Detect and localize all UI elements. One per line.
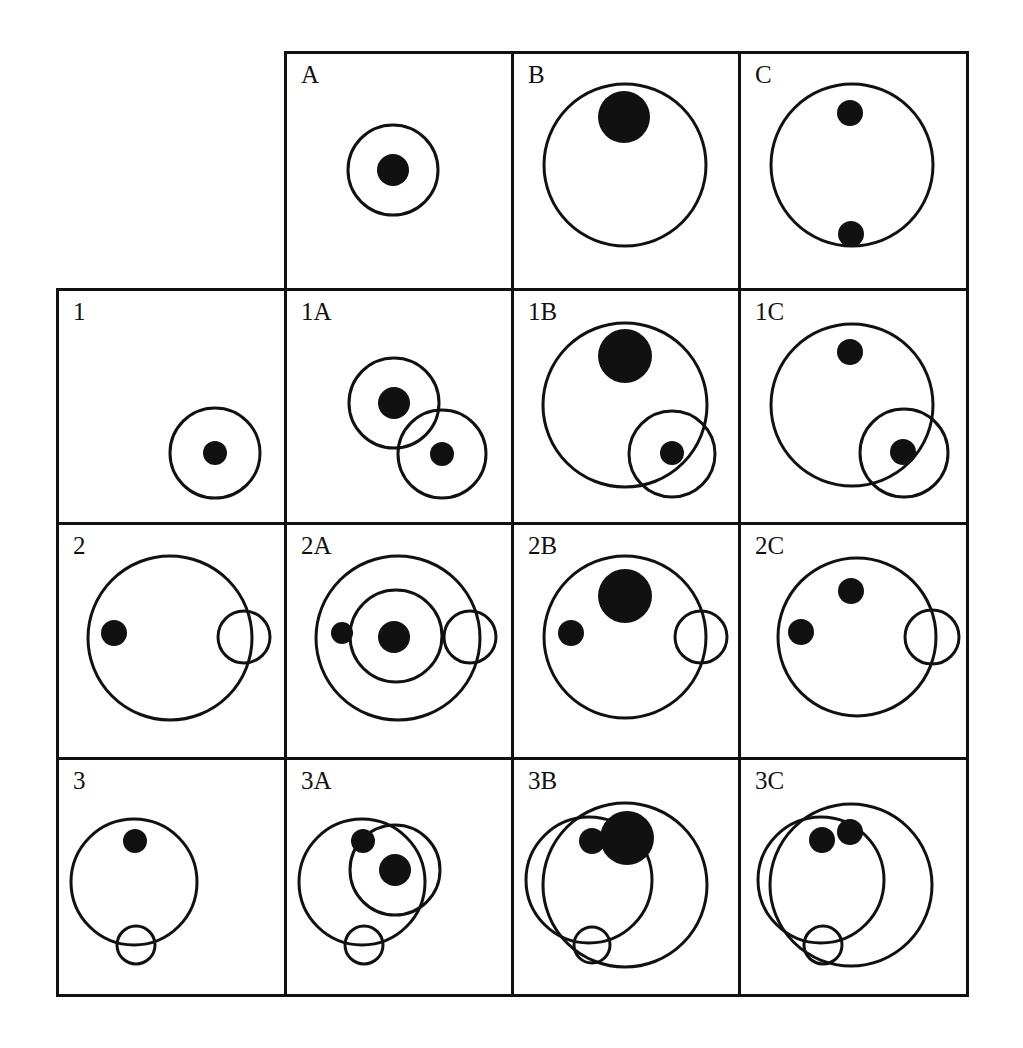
grid-cell-c: C bbox=[738, 51, 969, 291]
filled-dot-icon bbox=[837, 819, 863, 845]
filled-dot-icon bbox=[378, 387, 410, 419]
cell-label: 2C bbox=[755, 533, 784, 558]
grid-cell-3b: 3B bbox=[511, 757, 741, 997]
grid-cell-2c: 2C bbox=[738, 522, 969, 760]
filled-dot-icon bbox=[203, 441, 227, 465]
cell-diagram bbox=[56, 288, 287, 525]
filled-dot-icon bbox=[788, 619, 814, 645]
grid-cell-2: 2 bbox=[56, 522, 287, 760]
grid-cell-3a: 3A bbox=[284, 757, 514, 997]
filled-dot-icon bbox=[598, 329, 652, 383]
filled-dot-icon bbox=[377, 154, 409, 186]
grid-cell-b: B bbox=[511, 51, 741, 291]
filled-dot-icon bbox=[379, 854, 411, 886]
grid-cell-2b: 2B bbox=[511, 522, 741, 760]
filled-dot-icon bbox=[598, 91, 650, 143]
filled-dot-icon bbox=[660, 441, 684, 465]
ring-circle-icon bbox=[804, 926, 842, 964]
cell-label: C bbox=[755, 62, 772, 87]
grid-cell-a: A bbox=[284, 51, 514, 291]
cell-diagram bbox=[56, 757, 287, 997]
cell-label: 3A bbox=[301, 768, 332, 793]
ring-circle-icon bbox=[444, 611, 496, 663]
cell-label: 3B bbox=[528, 768, 557, 793]
ring-circle-icon bbox=[218, 611, 270, 663]
cell-label: 3C bbox=[755, 768, 784, 793]
grid-cell-1: 1 bbox=[56, 288, 287, 525]
filled-dot-icon bbox=[101, 620, 127, 646]
filled-dot-icon bbox=[837, 100, 863, 126]
filled-dot-icon bbox=[598, 569, 652, 623]
cell-label: B bbox=[528, 62, 545, 87]
grid-cell-1c: 1C bbox=[738, 288, 969, 525]
cell-label: 2 bbox=[73, 533, 86, 558]
grid-cell-2a: 2A bbox=[284, 522, 514, 760]
cell-label: 1A bbox=[301, 299, 332, 324]
ring-circle-icon bbox=[905, 610, 959, 664]
filled-dot-icon bbox=[378, 621, 410, 653]
filled-dot-icon bbox=[579, 828, 605, 854]
grid-cell-3c: 3C bbox=[738, 757, 969, 997]
cell-label: 1B bbox=[528, 299, 557, 324]
cell-diagram bbox=[511, 51, 741, 291]
filled-dot-icon bbox=[838, 578, 864, 604]
grid-cell-3: 3 bbox=[56, 757, 287, 997]
ring-circle-icon bbox=[574, 927, 610, 963]
filled-dot-icon bbox=[837, 339, 863, 365]
cell-label: A bbox=[301, 62, 319, 87]
filled-dot-icon bbox=[123, 829, 147, 853]
cell-label: 1C bbox=[755, 299, 784, 324]
grid-cell-1a: 1A bbox=[284, 288, 514, 525]
grid-cell-1b: 1B bbox=[511, 288, 741, 525]
cell-label: 3 bbox=[73, 768, 86, 793]
cell-diagram bbox=[738, 51, 969, 291]
cell-diagram bbox=[56, 522, 287, 760]
filled-dot-icon bbox=[351, 829, 375, 853]
filled-dot-icon bbox=[600, 811, 654, 865]
filled-dot-icon bbox=[890, 439, 916, 465]
filled-dot-icon bbox=[838, 221, 864, 247]
cell-label: 2B bbox=[528, 533, 557, 558]
combination-grid-figure: ABC11A1B1C22A2B2C33A3B3C bbox=[0, 0, 1023, 1048]
filled-dot-icon bbox=[430, 442, 454, 466]
filled-dot-icon bbox=[809, 827, 835, 853]
cell-label: 2A bbox=[301, 533, 332, 558]
cell-label: 1 bbox=[73, 299, 86, 324]
ring-circle-icon bbox=[675, 611, 727, 663]
filled-dot-icon bbox=[331, 622, 353, 644]
filled-dot-icon bbox=[558, 620, 584, 646]
